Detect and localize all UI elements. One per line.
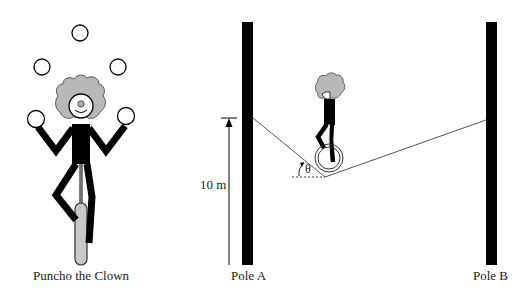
juggling-ball-top	[72, 25, 88, 41]
tightrope-scene	[221, 22, 497, 265]
pole-b-label: Pole B	[473, 268, 508, 284]
juggling-ball-mid-right	[110, 59, 126, 75]
clown-right-leg	[87, 164, 92, 243]
pole-b	[486, 22, 497, 265]
clown-left-leg	[56, 164, 76, 220]
juggling-clown-figure	[28, 25, 135, 265]
clown-left-arm	[38, 127, 73, 151]
unicycle-wheel	[75, 203, 87, 265]
pole-a	[242, 22, 253, 265]
angle-theta-label: θ	[305, 162, 311, 177]
clown-nose	[78, 101, 84, 107]
tightrope-clown-figure	[315, 73, 345, 172]
juggling-ball-left-hand	[28, 111, 45, 128]
juggling-ball-mid-left	[34, 59, 50, 75]
tightrope	[253, 118, 486, 177]
pole-a-label: Pole A	[231, 268, 266, 284]
juggling-ball-right-hand	[118, 108, 135, 125]
height-arrowhead-icon	[226, 118, 233, 127]
tightrope-clown-leg-front	[331, 124, 333, 162]
clown-caption: Puncho the Clown	[33, 268, 129, 284]
diagram-canvas	[0, 0, 528, 306]
tightrope-clown-torso	[324, 99, 335, 125]
clown-right-arm	[89, 126, 125, 151]
height-label: 10 m	[200, 177, 226, 193]
